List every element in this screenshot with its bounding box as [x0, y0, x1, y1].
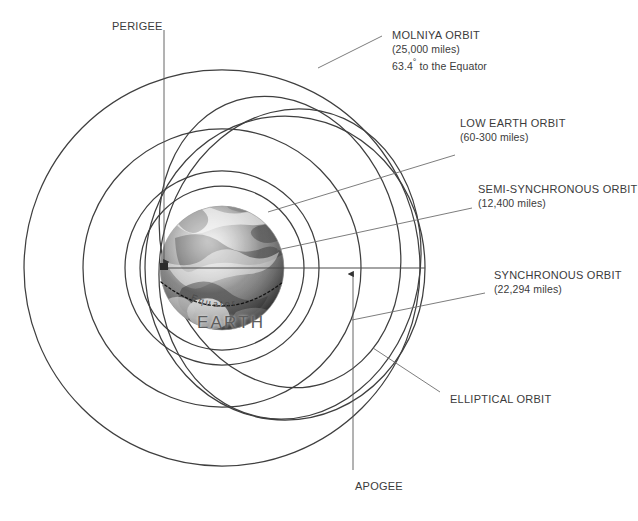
- label-molniya-orbit-name: MOLNIYA ORBIT: [392, 29, 480, 41]
- label-molniya-orbit: MOLNIYA ORBIT (25,000 miles) 63.4° to th…: [392, 29, 487, 73]
- leader-line-elliptical: [373, 348, 440, 392]
- label-perigee: PERIGEE: [112, 20, 163, 34]
- perigee-pointer: [160, 30, 168, 270]
- label-low-earth-orbit-name: LOW EARTH ORBIT: [460, 117, 566, 129]
- earth-globe: [160, 195, 286, 332]
- label-molniya-orbit-inclination: 63.4° to the Equator: [392, 56, 487, 73]
- leader-lines: [268, 36, 485, 392]
- label-synchronous-orbit-name: SYNCHRONOUS ORBIT: [494, 269, 622, 281]
- molniya-inclination-value: 63.4: [392, 60, 413, 72]
- label-semi-synchronous-orbit: SEMI-SYNCHRONOUS ORBIT (12,400 miles): [478, 183, 638, 210]
- label-earth: EARTH: [197, 313, 265, 333]
- label-apogee: APOGEE: [355, 480, 403, 494]
- label-semi-synchronous-orbit-name: SEMI-SYNCHRONOUS ORBIT: [478, 183, 638, 195]
- leader-line-low-earth: [268, 155, 455, 212]
- label-low-earth-orbit-altitude: (60-300 miles): [460, 131, 566, 145]
- molniya-inclination-note: to the Equator: [420, 60, 487, 72]
- leader-line-semi-synchronous: [277, 208, 472, 250]
- label-semi-synchronous-orbit-altitude: (12,400 miles): [478, 197, 638, 211]
- label-elliptical-orbit: ELLIPTICAL ORBIT: [450, 393, 551, 407]
- degree-symbol-icon: °: [413, 57, 417, 67]
- label-synchronous-orbit: SYNCHRONOUS ORBIT (22,294 miles): [494, 269, 622, 296]
- label-low-earth-orbit: LOW EARTH ORBIT (60-300 miles): [460, 117, 566, 144]
- label-molniya-orbit-altitude: (25,000 miles): [392, 43, 487, 57]
- label-synchronous-orbit-altitude: (22,294 miles): [494, 283, 622, 297]
- leader-line-molniya: [318, 36, 382, 68]
